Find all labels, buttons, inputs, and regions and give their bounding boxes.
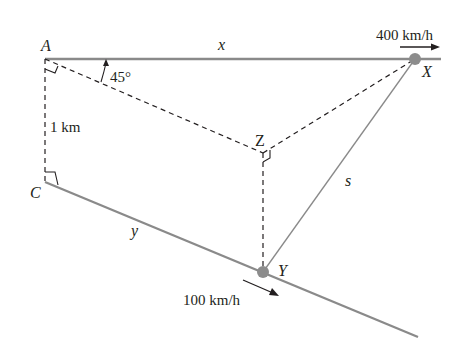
label-y: y	[129, 222, 139, 240]
label-x: x	[217, 36, 225, 53]
label-A: A	[40, 37, 51, 54]
label-s: s	[345, 172, 351, 189]
dashed-AZ	[45, 59, 263, 153]
label-distance: 1 km	[50, 119, 81, 135]
label-Z: Z	[255, 132, 265, 149]
velocity-arrow-Y	[243, 280, 273, 293]
related-rates-diagram: A x 400 km/h X 45° 1 km Z s C y Y 100 km…	[0, 0, 465, 352]
car-X-dot	[409, 53, 421, 65]
label-X: X	[421, 63, 433, 80]
label-C: C	[30, 184, 41, 201]
right-angle-marker-A	[45, 66, 58, 73]
segment-s	[263, 59, 415, 272]
road-bottom	[45, 182, 418, 337]
label-speed-X: 400 km/h	[376, 27, 434, 43]
velocity-arrowhead-Y-icon	[269, 288, 279, 296]
velocity-arrowhead-X-icon	[431, 44, 440, 51]
label-Y: Y	[278, 262, 289, 279]
label-angle: 45°	[110, 69, 131, 85]
dashed-ZX	[263, 59, 415, 153]
car-Y-dot	[257, 266, 269, 278]
label-speed-Y: 100 km/h	[183, 292, 241, 308]
